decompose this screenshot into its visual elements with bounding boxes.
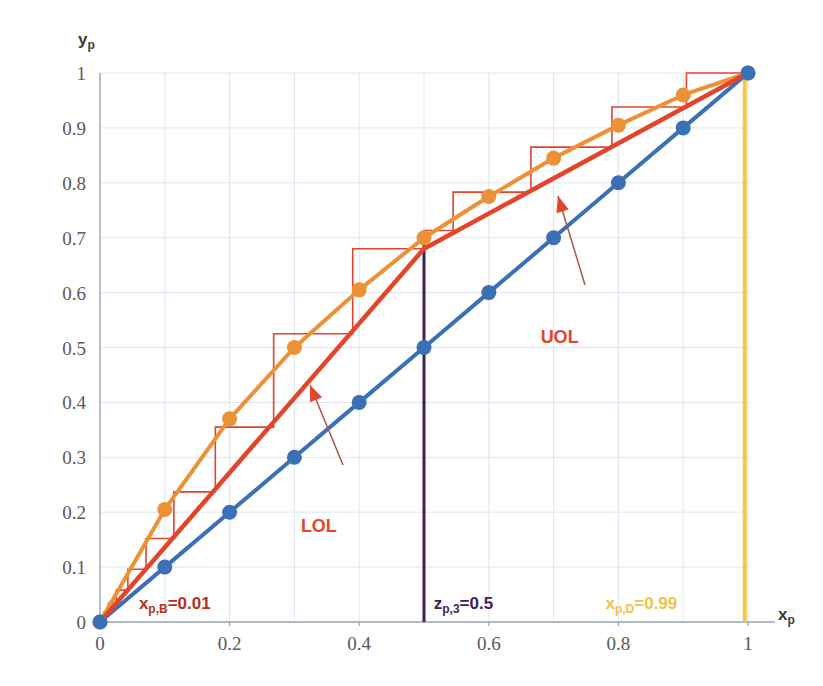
y-tick-label: 0 — [77, 612, 87, 633]
chart-canvas: 00.10.20.30.40.50.60.70.80.9100.20.40.60… — [0, 0, 823, 686]
data-point-marker — [546, 151, 561, 166]
data-point-marker — [157, 502, 172, 517]
y-tick-label: 0.8 — [62, 173, 86, 194]
data-point-marker — [611, 175, 626, 190]
x-tick-label: 0.6 — [477, 633, 501, 654]
data-point-marker — [287, 450, 302, 465]
y-tick-label: 0.7 — [62, 228, 86, 249]
x-tick-label: 1 — [743, 633, 753, 654]
data-point-marker — [93, 615, 108, 630]
data-point-marker — [352, 395, 367, 410]
data-point-marker — [546, 230, 561, 245]
data-point-marker — [417, 340, 432, 355]
x-tick-label: 0.2 — [218, 633, 242, 654]
y-tick-label: 0.3 — [62, 447, 86, 468]
x-tick-label: 0 — [95, 633, 105, 654]
data-point-marker — [676, 120, 691, 135]
y-tick-label: 1 — [77, 63, 87, 84]
data-point-marker — [481, 285, 496, 300]
y-tick-label: 0.2 — [62, 502, 86, 523]
y-tick-label: 0.1 — [62, 557, 86, 578]
data-point-marker — [222, 411, 237, 426]
data-point-marker — [611, 118, 626, 133]
data-point-marker — [352, 282, 367, 297]
data-point-marker — [287, 340, 302, 355]
data-point-marker — [157, 560, 172, 575]
data-point-marker — [222, 505, 237, 520]
y-tick-label: 0.5 — [62, 338, 86, 359]
annotation-LOL: LOL — [301, 516, 337, 536]
y-tick-label: 0.9 — [62, 118, 86, 139]
data-point-marker — [481, 189, 496, 204]
data-point-marker — [417, 230, 432, 245]
x-tick-label: 0.4 — [347, 633, 371, 654]
y-tick-label: 0.4 — [62, 392, 86, 413]
x-tick-label: 0.8 — [607, 633, 631, 654]
data-point-marker — [741, 66, 756, 81]
y-tick-label: 0.6 — [62, 283, 86, 304]
data-point-marker — [676, 87, 691, 102]
annotation-UOL: UOL — [541, 327, 579, 347]
equilibrium-diagram-chart: 00.10.20.30.40.50.60.70.80.9100.20.40.60… — [0, 0, 823, 686]
